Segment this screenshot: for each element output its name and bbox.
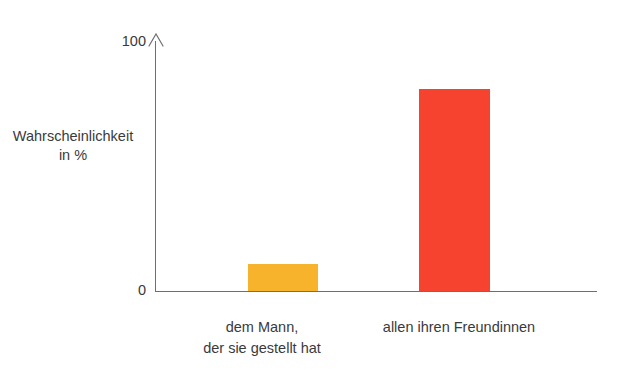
bar-chart: 100 0 Wahrscheinlichkeit in % dem Mann, … bbox=[0, 0, 637, 376]
plot-area bbox=[156, 41, 597, 291]
y-axis-title: Wahrscheinlichkeit in % bbox=[0, 127, 146, 165]
x-axis-line bbox=[155, 291, 597, 292]
bar-allen-ihren-freundinnen bbox=[419, 89, 490, 292]
x-axis-category-label-1: allen ihren Freundinnen bbox=[359, 317, 559, 338]
y-axis-title-line-1: Wahrscheinlichkeit bbox=[0, 127, 146, 146]
category-label-0-line-2: der sie gestellt hat bbox=[162, 338, 362, 359]
x-axis-category-label-0: dem Mann, der sie gestellt hat bbox=[162, 317, 362, 359]
category-label-1-line-1: allen ihren Freundinnen bbox=[359, 317, 559, 338]
category-label-0-line-1: dem Mann, bbox=[162, 317, 362, 338]
bar-dem-mann bbox=[248, 264, 318, 292]
y-axis-title-line-2: in % bbox=[0, 146, 146, 165]
y-tick-label-0: 0 bbox=[108, 283, 146, 298]
y-tick-label-100: 100 bbox=[88, 34, 146, 49]
